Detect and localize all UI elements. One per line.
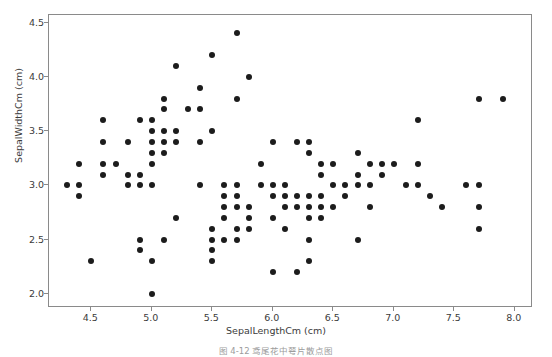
scatter-point [76, 161, 82, 167]
scatter-point [318, 204, 324, 210]
scatter-point [294, 193, 300, 199]
x-axis-tick [514, 307, 515, 311]
scatter-point [367, 161, 373, 167]
scatter-point [415, 117, 421, 123]
scatter-point [137, 247, 143, 253]
scatter-point [100, 161, 106, 167]
x-axis-tick-label: 7.5 [446, 312, 461, 323]
scatter-points-layer [49, 15, 531, 306]
scatter-point [149, 139, 155, 145]
scatter-point [294, 139, 300, 145]
scatter-point [391, 161, 397, 167]
scatter-point [209, 52, 215, 58]
scatter-point [318, 193, 324, 199]
x-axis-tick-label: 6.5 [325, 312, 340, 323]
scatter-point [306, 139, 312, 145]
scatter-point [161, 106, 167, 112]
scatter-point [318, 161, 324, 167]
scatter-point [234, 204, 240, 210]
scatter-point [221, 193, 227, 199]
scatter-point [221, 215, 227, 221]
y-axis-tick-label: 3.0 [29, 179, 44, 190]
scatter-point [209, 128, 215, 134]
scatter-point [258, 161, 264, 167]
scatter-point [197, 139, 203, 145]
figure-caption: 图 4-12 鸢尾花中萼片散点图 [0, 344, 552, 356]
scatter-point [197, 106, 203, 112]
scatter-point [209, 247, 215, 253]
scatter-point [125, 139, 131, 145]
scatter-point [282, 193, 288, 199]
scatter-point [476, 96, 482, 102]
scatter-point [234, 30, 240, 36]
scatter-point [234, 226, 240, 232]
x-axis-tick [151, 307, 152, 311]
scatter-point [476, 204, 482, 210]
scatter-point [282, 204, 288, 210]
scatter-point [294, 269, 300, 275]
scatter-point [161, 128, 167, 134]
scatter-point [306, 258, 312, 264]
y-axis-tick-label: 3.5 [29, 125, 44, 136]
scatter-point [125, 172, 131, 178]
scatter-point [149, 117, 155, 123]
scatter-point [161, 237, 167, 243]
scatter-point [282, 182, 288, 188]
scatter-point [197, 85, 203, 91]
scatter-point [76, 182, 82, 188]
scatter-point [355, 150, 361, 156]
scatter-point [306, 193, 312, 199]
scatter-point [149, 258, 155, 264]
scatter-point [270, 215, 276, 221]
scatter-point [306, 215, 312, 221]
scatter-point [173, 63, 179, 69]
scatter-point [221, 237, 227, 243]
x-axis-tick [211, 307, 212, 311]
scatter-point [306, 150, 312, 156]
scatter-point [476, 226, 482, 232]
scatter-point [270, 182, 276, 188]
scatter-point [100, 139, 106, 145]
scatter-point [221, 182, 227, 188]
scatter-point [427, 193, 433, 199]
scatter-point [367, 182, 373, 188]
x-axis-tick [90, 307, 91, 311]
scatter-point [270, 139, 276, 145]
scatter-point [234, 237, 240, 243]
scatter-point [246, 74, 252, 80]
x-axis-tick [332, 307, 333, 311]
scatter-point [306, 204, 312, 210]
x-axis-tick-label: 8.0 [506, 312, 521, 323]
scatter-point [270, 269, 276, 275]
scatter-point [463, 182, 469, 188]
x-axis-tick [272, 307, 273, 311]
x-axis-tick-label: 5.5 [204, 312, 219, 323]
scatter-point [367, 204, 373, 210]
scatter-point [234, 96, 240, 102]
scatter-point [137, 237, 143, 243]
y-axis-tick-label: 2.5 [29, 233, 44, 244]
x-axis-tick [453, 307, 454, 311]
scatter-point [149, 150, 155, 156]
scatter-point [476, 182, 482, 188]
scatter-point [76, 193, 82, 199]
scatter-point [234, 193, 240, 199]
scatter-point [113, 161, 119, 167]
scatter-point [294, 204, 300, 210]
scatter-point [161, 96, 167, 102]
scatter-point [246, 215, 252, 221]
scatter-point [379, 161, 385, 167]
scatter-point [342, 182, 348, 188]
scatter-point [330, 182, 336, 188]
scatter-point [282, 226, 288, 232]
scatter-point [100, 117, 106, 123]
scatter-point [342, 193, 348, 199]
scatter-point [270, 193, 276, 199]
y-axis-label: SepalWidthCm (cm) [13, 46, 24, 186]
scatter-point [100, 172, 106, 178]
x-axis-tick-label: 6.0 [264, 312, 279, 323]
x-axis-label: SepalLengthCm (cm) [0, 325, 552, 336]
scatter-point [197, 182, 203, 188]
scatter-point [149, 182, 155, 188]
scatter-point [137, 172, 143, 178]
